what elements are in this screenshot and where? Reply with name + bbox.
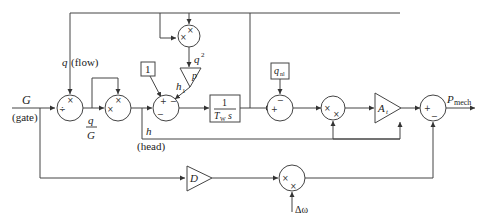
svg-text:1: 1 bbox=[145, 63, 151, 75]
svg-text:2: 2 bbox=[201, 51, 205, 59]
svg-text:1: 1 bbox=[222, 97, 227, 108]
svg-text:W: W bbox=[220, 116, 226, 122]
multiply-junction: × × bbox=[105, 95, 131, 121]
svg-text:−: − bbox=[431, 112, 438, 121]
svg-text:−: − bbox=[157, 110, 164, 119]
svg-text:+: + bbox=[271, 105, 278, 114]
svg-text:(head): (head) bbox=[137, 140, 165, 153]
svg-text:nl: nl bbox=[280, 71, 285, 77]
svg-text:q: q bbox=[274, 65, 279, 76]
svg-text:G: G bbox=[87, 129, 95, 141]
svg-text:q: q bbox=[88, 114, 94, 126]
svg-text:1: 1 bbox=[182, 87, 186, 95]
svg-text:×: × bbox=[67, 96, 74, 105]
head-to-mult-line bbox=[333, 121, 400, 139]
constant-one-block: 1 bbox=[141, 62, 155, 76]
no-load-flow-block: q nl bbox=[271, 63, 289, 79]
svg-text:×: × bbox=[187, 26, 194, 35]
q-over-g-label: q G bbox=[86, 114, 97, 141]
output-sum-junction: + − bbox=[420, 95, 446, 121]
gate-input: G (gate) bbox=[12, 93, 55, 124]
svg-text:q: q bbox=[194, 53, 200, 65]
gate-label: (gate) bbox=[12, 111, 38, 124]
svg-text:s: s bbox=[228, 110, 232, 121]
svg-text:×: × bbox=[333, 110, 340, 119]
power-multiply-junction: × × bbox=[321, 96, 345, 120]
svg-text:h: h bbox=[146, 125, 152, 137]
svg-text:×: × bbox=[290, 182, 297, 191]
svg-text:q: q bbox=[62, 56, 68, 68]
svg-text:D: D bbox=[189, 172, 198, 184]
svg-text:+: + bbox=[160, 97, 167, 106]
svg-text:×: × bbox=[107, 105, 114, 114]
q-square-left-line bbox=[160, 13, 176, 38]
svg-text:mech: mech bbox=[454, 98, 471, 107]
svg-text:×: × bbox=[282, 174, 289, 183]
gate-symbol: G bbox=[22, 93, 31, 107]
svg-text:×: × bbox=[324, 104, 331, 113]
flow-label: q (flow) bbox=[62, 56, 99, 69]
q-squared-label: q 2 bbox=[194, 51, 205, 65]
friction-gain-block: p bbox=[180, 68, 201, 87]
integrator-block: 1 T W s bbox=[210, 95, 240, 122]
h1-label: h 1 bbox=[176, 80, 186, 95]
damping-gain-block: D bbox=[187, 166, 212, 191]
block-diagram: G (gate) × ÷ q (flow) q G × × h (head) 1 bbox=[0, 0, 481, 222]
speed-deviation-label: Δω bbox=[295, 204, 308, 215]
svg-text:×: × bbox=[115, 96, 122, 105]
svg-text:P: P bbox=[446, 93, 454, 105]
turbine-gain-block: A t bbox=[375, 93, 401, 123]
svg-text:×: × bbox=[180, 33, 187, 42]
svg-text:(flow): (flow) bbox=[71, 56, 99, 69]
damping-to-output-line bbox=[305, 122, 433, 178]
flow-sum-junction: + − bbox=[267, 95, 293, 121]
pmech-label: P mech bbox=[446, 93, 471, 107]
divide-junction: × ÷ bbox=[57, 95, 83, 121]
svg-text:−: − bbox=[277, 96, 284, 105]
damping-multiply-junction: × × bbox=[279, 165, 305, 191]
svg-text:p: p bbox=[191, 70, 197, 81]
svg-text:÷: ÷ bbox=[59, 105, 66, 114]
q-square-junction: × × bbox=[178, 25, 200, 47]
svg-text:+: + bbox=[424, 104, 431, 113]
const-line bbox=[150, 76, 161, 97]
svg-text:A: A bbox=[377, 102, 385, 114]
